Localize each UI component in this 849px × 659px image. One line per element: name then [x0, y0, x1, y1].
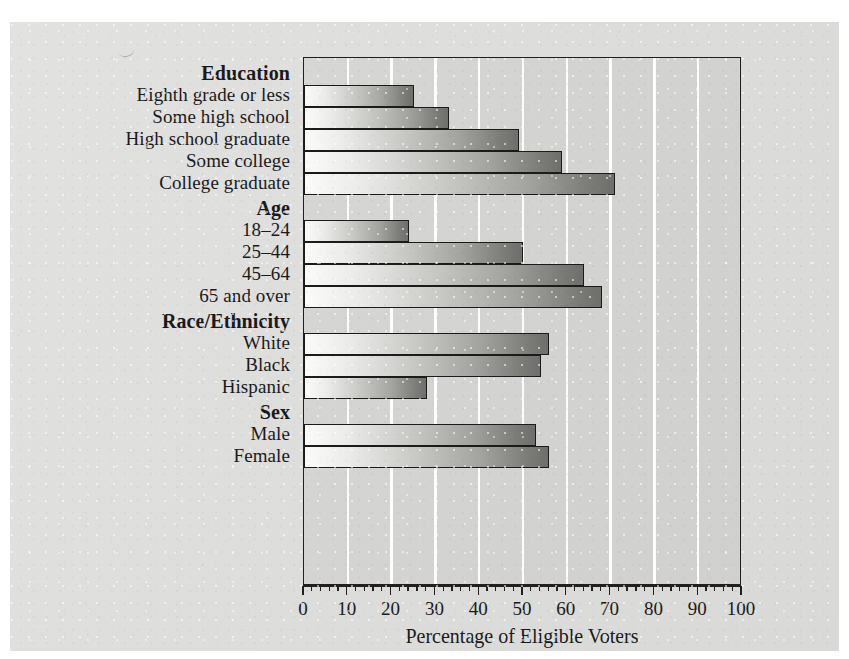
category-label: Some high school	[152, 106, 290, 128]
x-tick-label-40: 40	[469, 598, 488, 620]
minor-tick-74	[626, 586, 627, 591]
minor-tick-68	[600, 586, 601, 591]
major-tick-10	[346, 586, 347, 595]
major-tick-100	[740, 586, 741, 595]
category-label: White	[243, 332, 290, 354]
minor-tick-92	[705, 586, 706, 591]
minor-tick-4	[320, 586, 321, 591]
bar-row	[304, 377, 741, 399]
category-label: 25–44	[242, 241, 290, 263]
x-tick-label-50: 50	[513, 598, 532, 620]
minor-tick-8	[337, 586, 338, 591]
x-tick-label-70: 70	[600, 598, 619, 620]
minor-tick-72	[618, 586, 619, 591]
bar-row	[304, 220, 741, 242]
bar-hispanic	[304, 377, 427, 399]
bar-25-44	[304, 242, 523, 264]
minor-tick-22	[399, 586, 400, 591]
group-label-sex: Sex	[260, 401, 290, 423]
major-tick-50	[521, 586, 522, 595]
plot-area	[303, 57, 741, 585]
minor-tick-14	[364, 586, 365, 591]
x-tick-label-90: 90	[688, 598, 707, 620]
bar-some-college	[304, 151, 562, 173]
category-label: 45–64	[242, 263, 290, 285]
minor-tick-76	[635, 586, 636, 591]
bar-row	[304, 107, 741, 129]
bar-45-64	[304, 264, 584, 286]
major-tick-30	[434, 586, 435, 595]
minor-tick-66	[591, 586, 592, 591]
group-label-education: Education	[201, 62, 290, 84]
bar-18-24	[304, 220, 409, 242]
minor-tick-98	[732, 586, 733, 591]
bar-white	[304, 333, 549, 355]
minor-tick-96	[723, 586, 724, 591]
minor-tick-18	[381, 586, 382, 591]
minor-tick-62	[574, 586, 575, 591]
minor-tick-28	[425, 586, 426, 591]
category-label: Female	[233, 445, 290, 467]
minor-tick-34	[451, 586, 452, 591]
major-tick-70	[609, 586, 610, 595]
x-tick-label-20: 20	[381, 598, 400, 620]
category-label: Eighth grade or less	[137, 84, 290, 106]
bar-college-graduate	[304, 173, 615, 195]
minor-tick-88	[688, 586, 689, 591]
bar-row	[304, 286, 741, 308]
minor-tick-6	[329, 586, 330, 591]
minor-tick-12	[355, 586, 356, 591]
bar-row	[304, 242, 741, 264]
minor-tick-42	[486, 586, 487, 591]
bar-row	[304, 151, 741, 173]
x-tick-label-10: 10	[337, 598, 356, 620]
major-tick-0	[302, 586, 303, 595]
x-tick-label-60: 60	[556, 598, 575, 620]
bar-rows	[304, 58, 740, 584]
x-tick-label-0: 0	[298, 598, 308, 620]
category-label-column: EducationEighth grade or lessSome high s…	[10, 57, 298, 585]
category-label: College graduate	[159, 172, 290, 194]
group-label-race-ethnicity: Race/Ethnicity	[162, 310, 290, 332]
minor-tick-46	[504, 586, 505, 591]
category-label: Male	[251, 423, 290, 445]
minor-tick-16	[372, 586, 373, 591]
major-tick-60	[565, 586, 566, 595]
category-label: High school graduate	[125, 128, 290, 150]
bar-female	[304, 446, 549, 468]
bar-row	[304, 446, 741, 468]
minor-tick-52	[530, 586, 531, 591]
bar-high-school-graduate	[304, 129, 519, 151]
minor-tick-26	[416, 586, 417, 591]
minor-tick-24	[407, 586, 408, 591]
category-label: Black	[245, 354, 290, 376]
category-label: 65 and over	[199, 285, 290, 307]
bar-row	[304, 129, 741, 151]
major-tick-90	[697, 586, 698, 595]
minor-tick-54	[539, 586, 540, 591]
bar-row	[304, 424, 741, 446]
minor-tick-38	[469, 586, 470, 591]
minor-tick-58	[556, 586, 557, 591]
bar-male	[304, 424, 536, 446]
minor-tick-56	[548, 586, 549, 591]
bar-eighth-grade-or-less	[304, 85, 414, 107]
x-axis: 0102030405060708090100 Percentage of Eli…	[303, 585, 741, 645]
x-tick-label-30: 30	[425, 598, 444, 620]
minor-tick-48	[513, 586, 514, 591]
scanned-page-background: EducationEighth grade or lessSome high s…	[10, 22, 839, 651]
x-tick-label-100: 100	[727, 598, 756, 620]
x-tick-label-80: 80	[644, 598, 663, 620]
bar-row	[304, 333, 741, 355]
minor-tick-32	[443, 586, 444, 591]
x-axis-title: Percentage of Eligible Voters	[303, 625, 741, 648]
category-label: 18–24	[242, 219, 290, 241]
bar-row	[304, 355, 741, 377]
bar-black	[304, 355, 541, 377]
minor-tick-78	[644, 586, 645, 591]
bar-row	[304, 264, 741, 286]
group-label-age: Age	[256, 197, 290, 219]
category-label: Hispanic	[222, 376, 290, 398]
minor-tick-64	[583, 586, 584, 591]
minor-tick-2	[311, 586, 312, 591]
